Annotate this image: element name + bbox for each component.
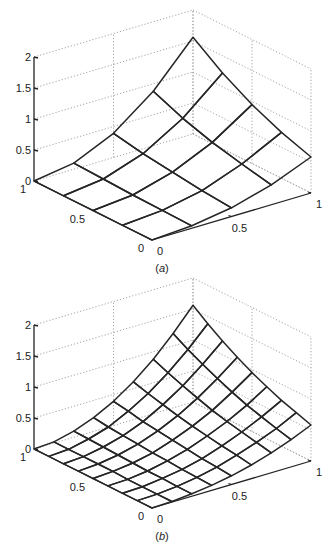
surface-cell (212, 392, 247, 421)
back-wall-gridline-z (34, 278, 193, 325)
z-tick-label: 2 (25, 51, 31, 63)
surface-mesh (34, 37, 311, 240)
surface-cell (242, 417, 277, 443)
back-wall-gridline-z (34, 103, 193, 150)
figure: 00.511.5200.5100.51(a) 00.511.5200.5100.… (0, 0, 330, 552)
surface-cell (93, 471, 128, 486)
surface-cell (89, 427, 124, 447)
surface-cell (64, 179, 133, 211)
z-tick-label: 1 (25, 113, 31, 125)
surface-cell (103, 154, 172, 195)
surface-cell (212, 105, 281, 164)
surface-cell (74, 133, 143, 179)
y-tick-label: 0.5 (70, 213, 85, 225)
surface-cell (148, 461, 183, 479)
y-tick-label: 1 (20, 183, 26, 195)
surface-cell (207, 422, 242, 446)
y-tick-label: 1 (20, 451, 26, 463)
surface-cell (168, 350, 203, 386)
surface-cell (133, 172, 202, 210)
surface-cell (237, 442, 272, 465)
surface-cell (257, 429, 292, 453)
surface-cell (232, 373, 267, 406)
x-tick-label: 1 (316, 198, 322, 210)
x-tick-label: 0 (157, 513, 163, 525)
surface-cell (198, 379, 233, 411)
surface-cell (113, 463, 148, 479)
surface-cell (114, 382, 149, 411)
surface-cell (217, 357, 252, 392)
surface-cell (123, 422, 158, 445)
surface-cell (128, 394, 163, 422)
surface-cell (123, 210, 192, 240)
surface-cell (182, 459, 217, 478)
surface-cell (162, 191, 231, 226)
surface-cell (54, 431, 89, 449)
surface-cell (78, 464, 113, 479)
z-tick-label: 2 (25, 319, 31, 331)
surface-cell (202, 446, 237, 467)
surface-cell (203, 341, 238, 378)
surface-cell (138, 431, 173, 453)
z-tick-label: 0.5 (16, 144, 31, 156)
surface-cell (34, 163, 103, 196)
surface-cell (133, 453, 168, 471)
x-tick-label: 0.5 (232, 222, 247, 234)
y-tick-label: 0 (138, 510, 144, 522)
surface-cell (108, 479, 143, 493)
surface-cell (49, 449, 84, 464)
surface-cell (178, 398, 213, 426)
surface-cell (202, 164, 271, 208)
surface-cell (137, 494, 172, 508)
surface-cell (118, 444, 153, 463)
x-tick (229, 216, 232, 217)
figure-caption: (a) (155, 262, 168, 274)
back-wall-gridline-z (34, 371, 193, 418)
surface-cell (197, 467, 232, 485)
caption-close-paren: ) (165, 262, 169, 274)
x-tick (229, 484, 232, 485)
surface-cell (133, 359, 168, 393)
surface-cell (142, 478, 177, 494)
surface-cell (158, 416, 193, 440)
x-tick-label: 0 (157, 245, 163, 257)
surface-cell (157, 486, 192, 501)
back-wall-gridline-z (34, 10, 193, 57)
y-tick-label: 0.5 (70, 481, 85, 493)
surface-cell (64, 457, 99, 472)
surface-cell (74, 418, 109, 439)
surface-cell (103, 436, 138, 455)
surface-cell (94, 401, 129, 427)
surface-cell (123, 487, 158, 501)
surface-cell (217, 455, 252, 476)
x-tick-label: 1 (316, 466, 322, 478)
surface-cell (163, 386, 198, 416)
z-tick-label: 1 (25, 381, 31, 393)
caption-close-paren: ) (165, 530, 169, 542)
surface-cell (276, 413, 311, 440)
surface-cell (183, 364, 218, 398)
surface-cell (173, 426, 208, 449)
surface-cell (173, 142, 242, 190)
surface-cell (167, 449, 202, 469)
surface-cell (187, 436, 222, 459)
surface-cell (162, 469, 197, 486)
surface-cell (153, 440, 188, 461)
z-tick-label: 0.5 (16, 412, 31, 424)
surface-plot-a: 00.511.5200.5100.51(a) (16, 10, 322, 274)
x-tick-label: 0.5 (232, 490, 247, 502)
z-tick-label: 1.5 (16, 350, 31, 362)
surface-cell (222, 432, 257, 455)
surface-mesh (34, 305, 311, 508)
surface-cell (98, 455, 133, 471)
surface-cell (114, 91, 183, 154)
surface-cell (192, 410, 227, 436)
surface-cell (143, 118, 212, 172)
surface-cell (69, 439, 104, 457)
surface-cell (173, 305, 208, 349)
surface-cell (148, 373, 183, 405)
z-tick-label: 1.5 (16, 82, 31, 94)
y-tick-label: 0 (138, 242, 144, 254)
surface-cell (128, 471, 163, 487)
surface-cell (83, 447, 118, 464)
